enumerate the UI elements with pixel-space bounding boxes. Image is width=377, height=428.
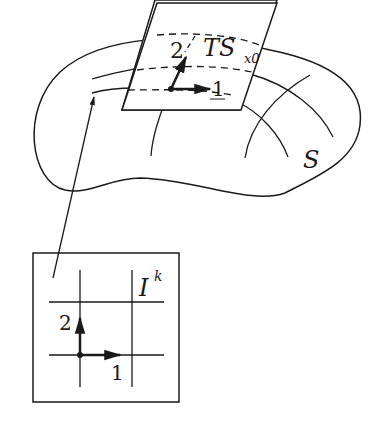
domain-label-sup: k [154, 268, 162, 284]
surface-curve [245, 75, 310, 158]
surface-label: S [303, 146, 319, 174]
surface-curve [237, 102, 288, 157]
tangent-plane-label: TS [203, 34, 235, 62]
surface-curve [250, 74, 333, 137]
tangent-axis-1-label: 1 [212, 77, 225, 101]
diagram-canvas: 2 1 TS x0 S 2 1 I k [0, 0, 377, 428]
domain-label: I [138, 274, 149, 302]
tangent-axis-2-label: 2 [170, 38, 184, 63]
tangent-plane-subscript: x0 [244, 51, 260, 66]
domain-axis-2-label: 2 [59, 311, 72, 335]
tangent-plane-label-main: TS [203, 34, 235, 62]
domain-axis-1-label: 1 [111, 361, 124, 385]
